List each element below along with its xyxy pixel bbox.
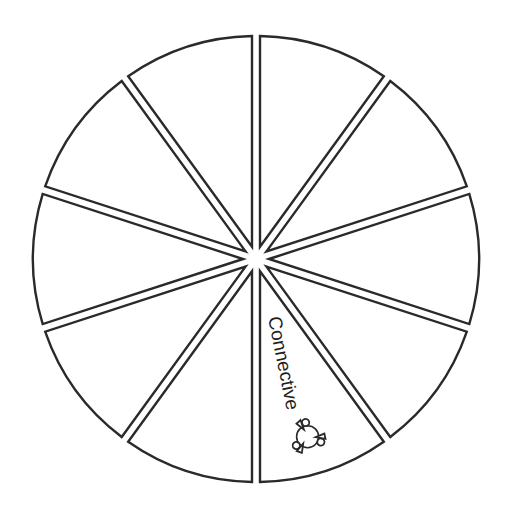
segmented-wheel: Connective [0,0,508,516]
wheel-segments [33,36,479,482]
